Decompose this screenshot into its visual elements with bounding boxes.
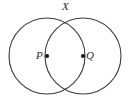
point-label-x: X	[62, 1, 69, 12]
geometry-figure: X P Q	[0, 0, 131, 108]
center-dot-p	[45, 54, 49, 58]
figure-canvas	[0, 0, 131, 108]
center-dot-q	[81, 54, 85, 58]
point-label-p: P	[36, 50, 43, 61]
point-label-q: Q	[86, 50, 94, 61]
